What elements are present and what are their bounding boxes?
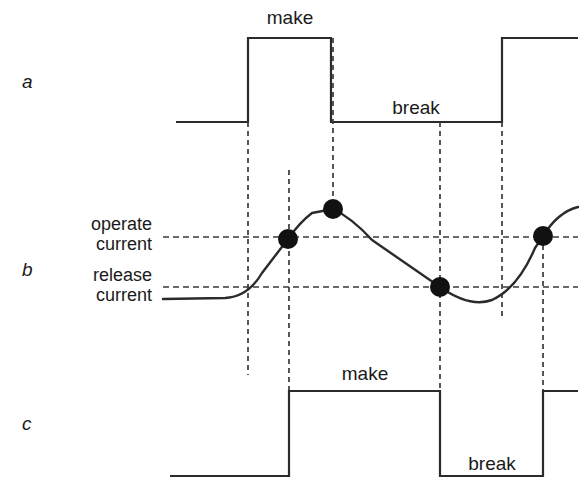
trace-b-current-curve <box>163 207 578 302</box>
row-label-b: b <box>22 259 33 280</box>
trace-a-break-label: break <box>392 97 440 118</box>
relay-timing-diagram: a b c make break operate current release… <box>0 0 587 499</box>
marker-operate-rising <box>278 229 298 249</box>
trace-c-waveform <box>170 391 578 476</box>
marker-release-falling <box>430 277 450 297</box>
marker-operate-rising-2 <box>533 226 553 246</box>
release-current-label-line1: release <box>93 265 152 285</box>
trace-c-break-label: break <box>468 453 516 474</box>
operate-current-label-line1: operate <box>91 214 152 234</box>
trace-c-make-label: make <box>342 363 388 384</box>
marker-peak <box>323 199 343 219</box>
row-label-a: a <box>22 71 33 92</box>
operate-current-label-line2: current <box>96 234 152 254</box>
trace-a-make-label: make <box>267 7 313 28</box>
trace-a-waveform <box>176 38 578 122</box>
release-current-label-line2: current <box>96 285 152 305</box>
diagram-canvas: a b c make break operate current release… <box>0 0 587 499</box>
row-label-c: c <box>22 413 32 434</box>
